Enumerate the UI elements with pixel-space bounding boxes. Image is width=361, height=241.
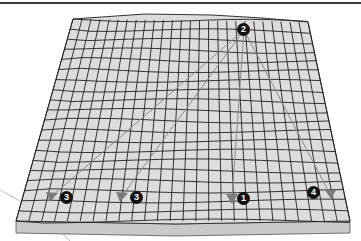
badge-target-2: 3 [130, 191, 143, 204]
badge-source: 2 [237, 23, 250, 36]
diagram-canvas: 2 3 3 1 4 [0, 0, 361, 241]
badge-target-1: 3 [60, 191, 73, 204]
grid-surface [0, 0, 361, 241]
badge-target-3: 1 [237, 192, 250, 205]
badge-target-4: 4 [307, 186, 320, 199]
